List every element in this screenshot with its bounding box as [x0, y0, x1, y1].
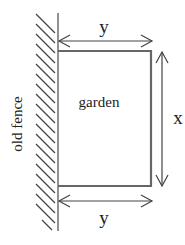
bottom-y-label: y: [99, 207, 109, 228]
garden-label: garden: [79, 94, 120, 110]
right-dimension-arrow: [156, 52, 168, 186]
garden-boundary: [58, 51, 151, 186]
garden-fence-diagram: y y x garden old fence: [0, 0, 185, 245]
right-x-label: x: [173, 107, 183, 128]
fence-hatching: [36, 14, 55, 230]
old-fence-label: old fence: [9, 96, 25, 152]
top-y-label: y: [99, 16, 109, 37]
bottom-dimension-arrow: [59, 195, 152, 207]
